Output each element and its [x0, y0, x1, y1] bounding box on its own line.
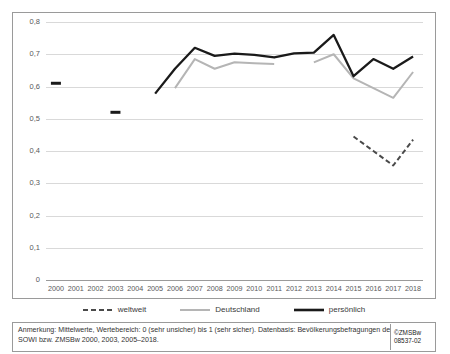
legend-swatch-solid — [294, 306, 324, 314]
chart-frame: 00,10,20,30,40,50,60,70,8 20002001200220… — [12, 12, 436, 299]
x-axis-tick-label: 2005 — [147, 285, 163, 292]
y-axis-tick-label: 0 — [36, 276, 40, 284]
x-axis-tick-label: 2018 — [405, 285, 421, 292]
legend-item[interactable]: weltweit — [83, 306, 146, 314]
footnote-text: Anmerkung: Mittelwerte, Wertebereich: 0 … — [18, 326, 402, 346]
x-axis-tick-label: 2008 — [207, 285, 223, 292]
series-line — [155, 35, 413, 94]
chart-legend: weltweitDeutschlandpersönlich — [12, 300, 436, 320]
x-axis-tick-label: 2004 — [127, 285, 143, 292]
x-axis-tick-label: 2001 — [68, 285, 84, 292]
legend-label: persönlich — [329, 306, 365, 314]
legend-label: weltweit — [118, 306, 146, 314]
legend-swatch-solid — [180, 306, 210, 314]
x-axis-tick-label: 2009 — [227, 285, 243, 292]
y-axis-tick-label: 0,2 — [30, 212, 40, 220]
legend-item[interactable]: persönlich — [294, 306, 365, 314]
x-axis-tick-label: 2015 — [346, 285, 362, 292]
x-axis-tick-label: 2007 — [187, 285, 203, 292]
source-copyright: ©ZMSBw — [394, 329, 421, 337]
chart-page: 00,10,20,30,40,50,60,70,8 20002001200220… — [0, 0, 450, 354]
x-axis-tick-label: 2013 — [306, 285, 322, 292]
y-axis-tick-label: 0,8 — [30, 18, 40, 26]
series-line — [314, 54, 413, 98]
x-axis-tick-label: 2002 — [88, 285, 104, 292]
legend-swatch-dashed — [83, 306, 113, 314]
x-axis-tick-label: 2006 — [167, 285, 183, 292]
y-axis-tick-label: 0,5 — [30, 115, 40, 123]
x-axis-tick-label: 2011 — [266, 285, 281, 292]
x-axis-tick-label: 2003 — [107, 285, 123, 292]
source-box: ©ZMSBw 08537-02 — [390, 324, 434, 350]
x-axis-tick-label: 2014 — [326, 285, 342, 292]
y-axis-tick-label: 0,3 — [30, 180, 40, 188]
legend-item[interactable]: Deutschland — [180, 306, 259, 314]
footnote-box: Anmerkung: Mittelwerte, Wertebereich: 0 … — [12, 322, 436, 352]
series-line — [175, 59, 274, 88]
x-axis-tick-label: 2016 — [365, 285, 381, 292]
source-code: 08537-02 — [394, 337, 421, 345]
gridline: 0 — [46, 280, 423, 281]
x-axis-tick-label: 2017 — [385, 285, 401, 292]
y-axis-tick-label: 0,1 — [30, 244, 40, 252]
x-axis-ticks: 2000200120022003200420052006200720082009… — [46, 285, 423, 297]
y-axis-tick-label: 0,7 — [30, 51, 40, 59]
plot-area: 00,10,20,30,40,50,60,70,8 — [46, 22, 423, 280]
y-axis-tick-label: 0,6 — [30, 83, 40, 91]
legend-label: Deutschland — [215, 306, 259, 314]
series-layer — [46, 22, 423, 280]
x-axis-tick-label: 2012 — [286, 285, 302, 292]
series-line — [354, 136, 414, 165]
x-axis-tick-label: 2000 — [48, 285, 64, 292]
x-axis-tick-label: 2010 — [246, 285, 262, 292]
y-axis-tick-label: 0,4 — [30, 147, 40, 155]
